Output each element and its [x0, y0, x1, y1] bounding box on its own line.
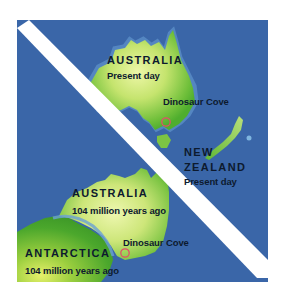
- australia-present-title: AUSTRALIA: [107, 55, 183, 66]
- australia-present-subtitle: Present day: [107, 71, 160, 81]
- antarctica-subtitle: 104 million years ago: [25, 266, 119, 276]
- new-zealand-title-line1: NEW: [184, 147, 214, 158]
- dinosaur-cove-present-label: Dinosaur Cove: [163, 97, 229, 107]
- new-zealand-title-line2: ZEALAND: [184, 162, 246, 173]
- australia-past-title: AUSTRALIA: [72, 188, 148, 199]
- map-panel: AUSTRALIA Present day Dinosaur Cove NEW …: [17, 20, 268, 282]
- island: [247, 136, 252, 141]
- dinosaur-cove-past-label: Dinosaur Cove: [123, 238, 189, 248]
- australia-past-subtitle: 104 million years ago: [72, 206, 166, 216]
- new-zealand-subtitle: Present day: [184, 177, 237, 187]
- antarctica-title: ANTARCTICA: [25, 248, 110, 259]
